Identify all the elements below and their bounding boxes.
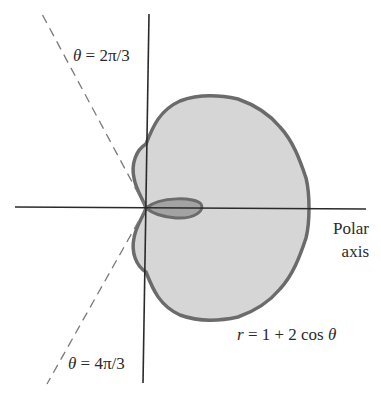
equation-label: r = 1 + 2 cos θ [237, 326, 336, 343]
lower-ray-label: θ = 4π/3 [68, 355, 125, 372]
lower-ray-angle: = 4π/3 [76, 354, 124, 373]
equation-body: = 1 + 2 cos [244, 325, 328, 344]
polar-axis-label-line1: Polar [325, 220, 369, 237]
polar-axis-label: Polar axis [325, 220, 369, 260]
r-variable: r [237, 325, 244, 344]
polar-axis-line [15, 207, 366, 209]
upper-ray-label: θ = 2π/3 [73, 47, 130, 64]
upper-ray-angle: = 2π/3 [81, 46, 129, 65]
polar-axis-label-line2: axis [325, 243, 369, 260]
theta-symbol: θ [328, 325, 336, 344]
ray-2pi-3 [42, 14, 146, 208]
